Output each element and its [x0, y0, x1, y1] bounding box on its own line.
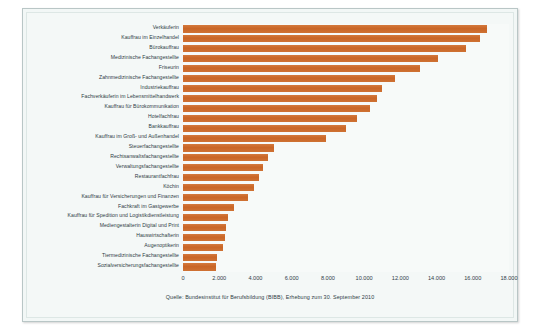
bar-row: Bürokauffrau — [183, 44, 509, 54]
bar-row: Augenoptikerin — [183, 242, 509, 252]
bar-row: Hauswirtschafterin — [183, 232, 509, 242]
bar-row: Medizinische Fachangestellte — [183, 54, 509, 64]
bar-category-label: Zahnmedizinische Fachangestellte — [99, 73, 179, 83]
x-axis-tick-label: 16.000 — [464, 275, 481, 281]
bar-row: Fachverkäuferin im Lebensmittelhandwerk — [183, 93, 509, 103]
bar-row: Köchin — [183, 183, 509, 193]
bar — [183, 85, 382, 92]
x-axis-tick-label: 0 — [181, 275, 184, 281]
bar-row: Kauffrau für Spedition und Logistikdiens… — [183, 212, 509, 222]
bar-row: Kauffrau für Versicherungen und Finanzen — [183, 193, 509, 203]
bar-category-label: Fachkraft im Gastgewerbe — [118, 202, 179, 212]
bar-row: Industriekauffrau — [183, 84, 509, 94]
bar-row: Tiermedizinische Fachangestellte — [183, 252, 509, 262]
x-axis-tick-label: 12.000 — [392, 275, 409, 281]
bar-row: Friseurin — [183, 64, 509, 74]
bar — [183, 234, 225, 241]
bar — [183, 65, 420, 72]
bar-category-label: Augenoptikerin — [144, 241, 179, 251]
bar-row: Hotelfachfrau — [183, 113, 509, 123]
x-axis-tick-label: 2.000 — [212, 275, 226, 281]
bar — [183, 184, 254, 191]
x-axis-tick-label: 8.000 — [321, 275, 335, 281]
bar — [183, 115, 357, 122]
x-axis: 02.0004.0006.0008.00010.00012.00014.0001… — [183, 272, 509, 288]
bar — [183, 164, 263, 171]
bar-row: Kauffrau für Bürokommunikation — [183, 103, 509, 113]
bar — [183, 154, 268, 161]
bar-chart-plot-area: VerkäuferinKauffrau im EinzelhandelBürok… — [183, 24, 509, 272]
bar-row: Verwaltungsfachangestellte — [183, 163, 509, 173]
bar — [183, 125, 346, 132]
bar-row: Verkäuferin — [183, 24, 509, 34]
bar-category-label: Köchin — [163, 182, 179, 192]
bar-row: Fachkraft im Gastgewerbe — [183, 203, 509, 213]
bar — [183, 194, 248, 201]
bar-category-label: Sozialversicherungsfachangestellte — [97, 261, 179, 271]
bar — [183, 244, 223, 251]
bar — [183, 35, 480, 42]
bar-category-label: Fachverkäuferin im Lebensmittelhandwerk — [81, 92, 179, 102]
bar-category-label: Hotelfachfrau — [148, 112, 179, 122]
chart-source-caption: Quelle: Bundesinstitut für Berufsbildung… — [27, 294, 513, 300]
bar — [183, 95, 377, 102]
bar — [183, 214, 228, 221]
bar-category-label: Kauffrau für Bürokommunikation — [105, 102, 179, 112]
x-axis-tick-label: 4.000 — [248, 275, 262, 281]
bar — [183, 254, 217, 261]
bar-category-label: Verwaltungsfachangestellte — [116, 162, 179, 172]
bar — [183, 204, 234, 211]
bar — [183, 55, 438, 62]
bar-category-label: Bürokauffrau — [149, 43, 179, 53]
x-axis-tick-label: 10.000 — [356, 275, 373, 281]
bar-category-label: Friseurin — [159, 63, 179, 73]
bar-category-label: Industriekauffrau — [140, 83, 179, 93]
bar — [183, 144, 274, 151]
bar-row: Kauffrau im Groß- und Außenhandel — [183, 133, 509, 143]
bar-category-label: Mediengestalterin Digital und Print — [100, 221, 179, 231]
bar-category-label: Steuerfachangestellte — [129, 142, 179, 152]
x-axis-tick-label: 18.000 — [500, 275, 517, 281]
bar-row: Steuerfachangestellte — [183, 143, 509, 153]
bar-row: Sozialversicherungsfachangestellte — [183, 262, 509, 272]
bar-row: Kauffrau im Einzelhandel — [183, 34, 509, 44]
bar-row: Restaurantfachfrau — [183, 173, 509, 183]
bar — [183, 25, 487, 32]
bar-category-label: Kauffrau im Groß- und Außenhandel — [95, 132, 179, 142]
bar — [183, 224, 226, 231]
bar — [183, 105, 370, 112]
bar-category-label: Rechtsanwaltsfachangestellte — [110, 152, 179, 162]
bar-category-label: Verkäuferin — [153, 23, 179, 33]
bar — [183, 75, 395, 82]
bar-category-label: Tiermedizinische Fachangestellte — [102, 251, 179, 261]
bar-row: Zahnmedizinische Fachangestellte — [183, 74, 509, 84]
bar-category-label: Kauffrau für Versicherungen und Finanzen — [81, 192, 179, 202]
bar-row: Mediengestalterin Digital und Print — [183, 222, 509, 232]
bar-row: Bankkauffrau — [183, 123, 509, 133]
bar-category-label: Bankkauffrau — [148, 122, 179, 132]
bar-category-label: Medizinische Fachangestellte — [111, 53, 179, 63]
bar-category-label: Kauffrau im Einzelhandel — [121, 33, 179, 43]
bar-category-label: Kauffrau für Spedition und Logistikdiens… — [68, 211, 179, 221]
bar-category-label: Hauswirtschafterin — [136, 231, 179, 241]
bar-category-label: Restaurantfachfrau — [135, 172, 179, 182]
bar — [183, 263, 216, 270]
bar — [183, 174, 259, 181]
chart-figure-panel: VerkäuferinKauffrau im EinzelhandelBürok… — [22, 8, 518, 322]
bar-row: Rechtsanwaltsfachangestellte — [183, 153, 509, 163]
x-axis-tick-label: 6.000 — [285, 275, 299, 281]
bar — [183, 135, 326, 142]
bar — [183, 45, 466, 52]
x-axis-tick-label: 14.000 — [428, 275, 445, 281]
chart-figure-inner: VerkäuferinKauffrau im EinzelhandelBürok… — [26, 12, 514, 318]
